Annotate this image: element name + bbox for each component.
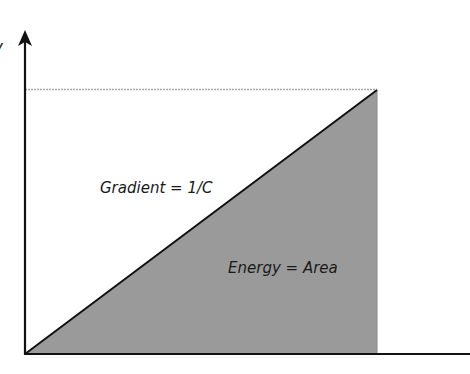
energy-area-label: Energy = Area: [228, 259, 338, 277]
capacitor-energy-diagram: V Gradient = 1/C Energy = Area: [0, 0, 470, 374]
y-axis-label: V: [0, 41, 4, 59]
gradient-label: Gradient = 1/C: [100, 179, 213, 197]
